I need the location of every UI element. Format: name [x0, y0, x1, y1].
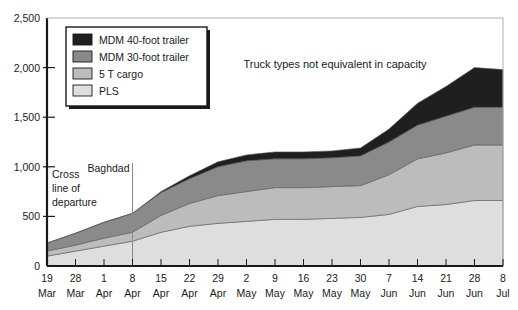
x-tick-label-day: 30: [355, 272, 367, 284]
x-tick-label-day: 28: [469, 272, 481, 284]
y-tick-label: 1,000: [14, 161, 40, 173]
x-tick-label-month: May: [265, 287, 286, 299]
x-tick-label-day: 15: [155, 272, 167, 284]
x-tick-label-month: May: [351, 287, 372, 299]
x-tick-label-month: Jun: [438, 287, 455, 299]
x-tick-label-day: 23: [326, 272, 338, 284]
annotation-label-cross-line-of-departure: line of: [52, 182, 80, 194]
x-tick-label-month: Apr: [210, 287, 227, 299]
x-tick-label-day: 9: [272, 272, 278, 284]
x-tick-label-month: Apr: [124, 287, 141, 299]
y-tick-label: 500: [22, 210, 40, 222]
x-tick-label-day: 8: [500, 272, 506, 284]
x-tick-label-day: 14: [412, 272, 424, 284]
x-tick-label-day: 2: [244, 272, 250, 284]
x-tick-label-month: Apr: [153, 287, 170, 299]
x-tick-label-day: 28: [70, 272, 82, 284]
stacked-area-chart: 05001,0001,5002,0002,500 19Mar28Mar1Apr8…: [0, 0, 518, 310]
chart-note: Truck types not equivalent in capacity: [243, 58, 427, 70]
legend-label: PLS: [99, 85, 119, 97]
x-tick-label-day: 16: [298, 272, 310, 284]
legend: MDM 40-foot trailerMDM 30-foot trailer5 …: [66, 27, 210, 109]
legend-swatch: [73, 85, 92, 96]
x-tick-label-month: Jul: [496, 287, 509, 299]
x-tick-label-day: 29: [212, 272, 224, 284]
x-tick-label-month: May: [322, 287, 343, 299]
x-tick-label-day: 19: [41, 272, 53, 284]
legend-label: MDM 40-foot trailer: [99, 34, 189, 46]
x-tick-label-day: 7: [386, 272, 392, 284]
legend-swatch: [73, 34, 92, 45]
legend-swatch: [73, 51, 92, 62]
annotation-label-baghdad: Baghdad: [87, 162, 129, 174]
x-tick-label-day: 8: [130, 272, 136, 284]
legend-label: MDM 30-foot trailer: [99, 51, 189, 63]
x-tick-label-day: 1: [101, 272, 107, 284]
x-tick-label-month: Jun: [466, 287, 483, 299]
x-tick-label-month: Apr: [96, 287, 113, 299]
x-tick-label-month: Apr: [181, 287, 198, 299]
annotation-label-cross-line-of-departure: Cross: [52, 168, 79, 180]
annotation-label-cross-line-of-departure: departure: [52, 196, 97, 208]
legend-swatch: [73, 68, 92, 79]
y-tick-label: 1,500: [14, 111, 40, 123]
y-tick-label: 0: [34, 260, 40, 272]
x-tick-label-month: Mar: [38, 287, 57, 299]
x-tick-label-month: May: [237, 287, 258, 299]
legend-label: 5 T cargo: [99, 68, 143, 80]
x-tick-label-month: Mar: [66, 287, 85, 299]
x-tick-label-month: Jun: [409, 287, 426, 299]
chart-canvas: 05001,0001,5002,0002,500 19Mar28Mar1Apr8…: [0, 0, 518, 310]
chart-note-group: Truck types not equivalent in capacity: [243, 58, 427, 70]
x-tick-label-day: 22: [184, 272, 196, 284]
x-tick-label-month: Jun: [381, 287, 398, 299]
x-tick-label-month: May: [294, 287, 315, 299]
y-tick-label: 2,500: [14, 12, 40, 24]
y-tick-label: 2,000: [14, 62, 40, 74]
x-tick-label-day: 21: [440, 272, 452, 284]
